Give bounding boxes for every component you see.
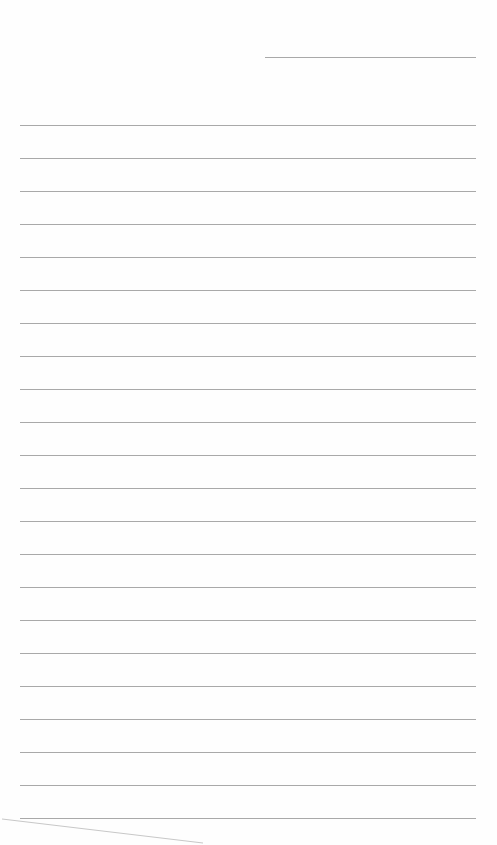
lined-paper-page	[0, 0, 497, 845]
page-edge-shadow	[0, 0, 497, 845]
